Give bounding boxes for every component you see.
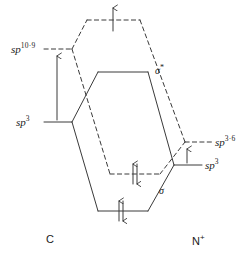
label-sigma-star-sup: * xyxy=(160,63,164,72)
label-sigma-base: σ xyxy=(159,185,164,196)
label-right-sp-3-6-base: sp xyxy=(215,136,225,148)
label-atom-nitrogen-symbol: N xyxy=(192,235,200,247)
label-atom-nitrogen-cation: N+ xyxy=(192,234,205,247)
label-atom-carbon: C xyxy=(46,234,54,245)
mo-diagram-canvas xyxy=(0,0,251,254)
mo-energy-diagram: sp10·9 sp3 sp3·6 sp3 σ* σ C N+ xyxy=(0,0,251,254)
label-atom-nitrogen-charge: + xyxy=(200,233,205,242)
label-left-sp-10-9-exponent: 10·9 xyxy=(21,41,36,50)
label-left-sp-3-base: sp xyxy=(16,116,26,128)
label-right-sp-3-6-exponent: 3·6 xyxy=(225,134,236,143)
correlation-left-lower-antibonding xyxy=(72,72,98,122)
correlation-right-lower-antibonding xyxy=(148,72,174,165)
correlation-left-lower-bonding xyxy=(72,122,98,211)
solid-interaction-group xyxy=(44,72,202,211)
label-right-sp-3-6: sp3·6 xyxy=(215,135,235,148)
label-left-sp-10-9: sp10·9 xyxy=(11,42,35,55)
label-left-sp-3-exponent: 3 xyxy=(26,114,30,123)
dashed-interaction-group xyxy=(44,20,213,174)
label-right-sp-3: sp3 xyxy=(205,158,219,171)
label-sigma-star: σ* xyxy=(155,64,164,76)
label-left-sp-10-9-base: sp xyxy=(11,43,21,55)
label-left-sp-3: sp3 xyxy=(16,115,30,128)
correlation-left-upper-antibonding xyxy=(72,20,87,49)
label-sigma: σ xyxy=(159,186,164,196)
label-right-sp-3-base: sp xyxy=(205,159,215,171)
label-atom-carbon-symbol: C xyxy=(46,233,54,245)
label-right-sp-3-exponent: 3 xyxy=(215,157,219,166)
